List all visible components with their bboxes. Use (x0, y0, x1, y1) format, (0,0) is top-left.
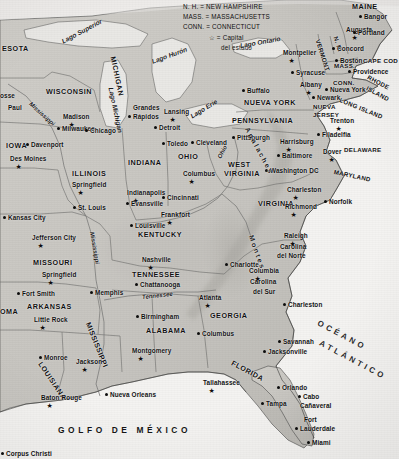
map-base-geography (0, 0, 399, 459)
legend: N. H. = NEW HAMPSHIRE MASS. = MASSACHUSE… (183, 2, 301, 53)
legend-capital-label: = Capital (217, 34, 244, 41)
lake-michigan-shape (100, 60, 128, 128)
legend-row-conn: CONN. = CONNECTICUT (183, 22, 301, 32)
interior-shading (104, 216, 216, 284)
legend-capital-row: ☆ = Capital (183, 33, 301, 43)
legend-capital-row2: del estado (183, 43, 301, 53)
legend-row-mass: MASS. = MASSACHUSETTS (183, 12, 301, 22)
map-canvas: N. H. = NEW HAMPSHIRE MASS. = MASSACHUSE… (0, 0, 399, 459)
capital-star-icon: ☆ (209, 34, 215, 41)
legend-row-nh: N. H. = NEW HAMPSHIRE (183, 2, 301, 12)
